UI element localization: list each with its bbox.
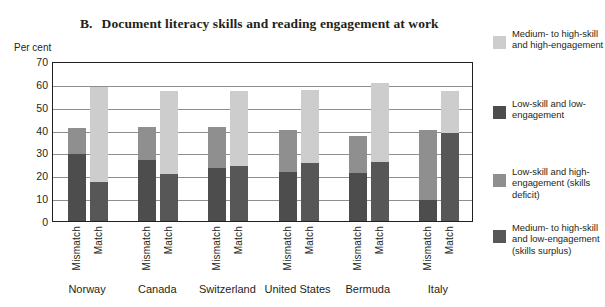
legend-swatch-icon [493, 230, 506, 243]
figure-panel-b: B.Document literacy skills and reading e… [0, 0, 605, 307]
gridline [53, 200, 472, 201]
bar-segment [419, 130, 437, 201]
bar-italy-match [441, 91, 459, 221]
chart-title-letter: B. [80, 16, 93, 31]
x-group-label-canada: Canada [138, 283, 177, 295]
plot-area [52, 62, 473, 222]
bar-switzerland-match [230, 91, 248, 221]
x-tick-label-match: Match [304, 226, 315, 254]
bar-united-states-mismatch [279, 130, 297, 221]
bar-bermuda-match [371, 83, 389, 221]
bar-segment [371, 83, 389, 162]
legend-label: Low-skill and high-engagement (skills de… [512, 166, 604, 200]
y-tick-label: 20 [14, 171, 48, 182]
y-tick-label: 0 [14, 217, 48, 228]
bar-segment [371, 162, 389, 221]
gridline [53, 132, 472, 133]
gridline [53, 177, 472, 178]
x-tick-label-mismatch: Mismatch [282, 226, 293, 270]
y-axis-unit-label: Per cent [14, 42, 51, 53]
x-tick-label-match: Match [233, 226, 244, 254]
bar-segment [301, 163, 319, 221]
y-tick-label: 30 [14, 148, 48, 159]
y-tick-label: 40 [14, 126, 48, 137]
gridline [53, 154, 472, 155]
x-tick-label-mismatch: Mismatch [71, 226, 82, 270]
bar-norway-match [90, 87, 108, 221]
bar-segment [349, 173, 367, 221]
bar-segment [230, 91, 248, 166]
y-tick-label: 10 [14, 194, 48, 205]
bar-canada-match [160, 91, 178, 221]
bar-segment [349, 136, 367, 173]
y-tick-label: 50 [14, 103, 48, 114]
x-group-label-bermuda: Bermuda [345, 283, 390, 295]
x-group-label-united-states: United States [265, 283, 331, 295]
x-group-label-italy: Italy [428, 283, 448, 295]
bar-segment [90, 87, 108, 182]
bar-segment [301, 90, 319, 163]
chart-title-text: Document literacy skills and reading eng… [102, 16, 439, 31]
bar-segment [279, 130, 297, 172]
legend-label: Medium- to high-skill and low-engagement… [512, 222, 604, 256]
bar-switzerland-mismatch [208, 127, 226, 221]
x-tick-label-mismatch: Mismatch [211, 226, 222, 270]
x-tick-label-mismatch: Mismatch [422, 226, 433, 270]
bar-segment [138, 127, 156, 160]
bar-united-states-match [301, 90, 319, 221]
legend-swatch-icon [493, 174, 506, 187]
bar-segment [208, 127, 226, 168]
x-tick-label-mismatch: Mismatch [141, 226, 152, 270]
bar-segment [208, 168, 226, 221]
bar-segment [160, 91, 178, 174]
gridline [53, 86, 472, 87]
bar-segment [68, 128, 86, 153]
bar-segment [441, 133, 459, 221]
bar-canada-mismatch [138, 127, 156, 221]
y-tick-label: 70 [14, 57, 48, 68]
x-tick-label-match: Match [163, 226, 174, 254]
bar-segment [419, 200, 437, 221]
bar-segment [230, 166, 248, 221]
x-group-label-switzerland: Switzerland [199, 283, 256, 295]
x-group-label-norway: Norway [68, 283, 105, 295]
bar-segment [441, 91, 459, 133]
legend-swatch-icon [493, 36, 506, 49]
gridline [53, 109, 472, 110]
legend-label: Low-skill and low-engagement [512, 98, 604, 121]
x-tick-label-match: Match [374, 226, 385, 254]
bar-segment [160, 174, 178, 221]
bar-italy-mismatch [419, 130, 437, 221]
x-tick-label-mismatch: Mismatch [352, 226, 363, 270]
chart-title: B.Document literacy skills and reading e… [80, 16, 480, 32]
y-tick-label: 60 [14, 80, 48, 91]
legend-swatch-icon [493, 106, 506, 119]
x-tick-label-match: Match [93, 226, 104, 254]
bar-segment [68, 154, 86, 221]
legend-label: Medium- to high-skill and high-engagemen… [512, 28, 604, 51]
bar-bermuda-mismatch [349, 136, 367, 221]
bar-norway-mismatch [68, 128, 86, 221]
bar-segment [279, 172, 297, 221]
bar-segment [90, 182, 108, 221]
x-tick-label-match: Match [444, 226, 455, 254]
bar-segment [138, 160, 156, 221]
